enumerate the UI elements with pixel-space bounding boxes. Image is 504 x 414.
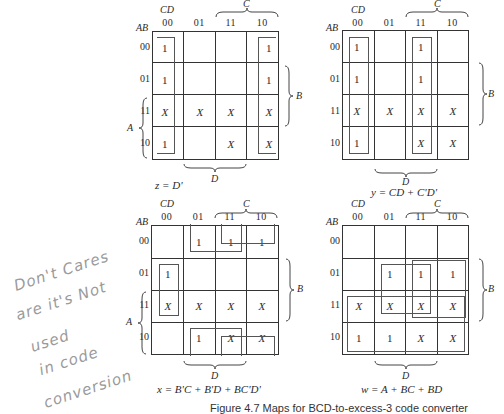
brace-b-icon xyxy=(478,62,488,126)
cell: X xyxy=(215,128,247,160)
equation-y: y = CD + C'D' xyxy=(371,186,437,198)
cell: X xyxy=(374,95,406,127)
row-code: 01 xyxy=(324,267,340,278)
col-vars-label: CD xyxy=(351,198,365,209)
brace-b-label: B xyxy=(296,90,302,101)
cell: X xyxy=(437,127,469,159)
brace-b-icon xyxy=(478,258,488,322)
brace-d-icon xyxy=(183,360,247,370)
note-line: used xyxy=(28,326,72,356)
col-vars-label: CD xyxy=(160,198,174,209)
col-code: 01 xyxy=(183,211,215,222)
kmap-grid: 1 1 1 1 X X X X 1 X X xyxy=(342,30,469,160)
row-code: 00 xyxy=(324,41,340,52)
row-code: 01 xyxy=(324,73,340,84)
brace-d-icon xyxy=(183,163,247,173)
row-code: 10 xyxy=(324,137,340,148)
cell: X xyxy=(437,95,469,127)
group-outline xyxy=(157,37,175,154)
brace-a-label: A xyxy=(127,122,133,133)
col-code: 11 xyxy=(405,17,437,28)
brace-b-label: B xyxy=(488,88,494,99)
group-outline xyxy=(349,37,369,154)
brace-a-label: A xyxy=(126,316,132,327)
row-vars-label: AB xyxy=(136,216,148,227)
group-outline xyxy=(221,224,275,244)
group-outline xyxy=(412,260,466,318)
brace-c-label: C xyxy=(434,0,441,9)
kmap-grid: 1 1 1 X X X X 1 1 X X xyxy=(342,225,469,355)
row-code: 10 xyxy=(324,331,340,342)
row-code: 00 xyxy=(324,235,340,246)
col-vars-label: CD xyxy=(160,4,174,15)
figure-caption: Figure 4.7 Maps for BCD-to-excess-3 code… xyxy=(210,402,468,414)
brace-b-label: B xyxy=(297,283,303,294)
col-code: 10 xyxy=(437,17,469,28)
brace-d-label: D xyxy=(211,173,218,184)
col-code: 00 xyxy=(342,211,374,222)
row-code: 00 xyxy=(133,235,149,246)
equation-z: z = D' xyxy=(155,179,183,191)
cell: X xyxy=(184,96,216,128)
row-code: 11 xyxy=(324,105,340,116)
brace-c-icon xyxy=(214,209,278,219)
cell: X xyxy=(215,290,247,322)
col-code: 11 xyxy=(215,17,247,28)
brace-c-label: C xyxy=(243,198,250,209)
brace-a-icon xyxy=(137,291,147,355)
brace-d-icon xyxy=(374,360,438,370)
group-outline xyxy=(258,37,276,154)
brace-a-icon xyxy=(138,97,148,159)
brace-d-label: D xyxy=(211,370,218,381)
kmap-grid: 1 1 1 1 X X X X 1 X X xyxy=(151,225,279,355)
cell: X xyxy=(246,290,278,322)
row-code: 01 xyxy=(133,267,149,278)
col-code: 01 xyxy=(374,211,406,222)
brace-c-label: C xyxy=(434,198,441,209)
group-outline xyxy=(412,37,432,154)
col-code: 01 xyxy=(184,17,216,28)
cell: X xyxy=(215,96,247,128)
col-code: 01 xyxy=(374,17,406,28)
brace-c-label: C xyxy=(243,0,250,9)
row-code: 00 xyxy=(134,41,150,52)
brace-d-label: D xyxy=(402,370,409,381)
equation-x: x = B'C + B'D + BC'D' xyxy=(157,383,261,395)
equation-w: w = A + BC + BD xyxy=(361,383,442,395)
cell: X xyxy=(183,290,215,322)
brace-c-icon xyxy=(405,209,469,219)
group-outline xyxy=(221,336,275,356)
kmap-grid: 1 1 1 1 X X X X 1 X X xyxy=(152,31,279,160)
col-code: 00 xyxy=(342,17,374,28)
col-code: 00 xyxy=(152,17,184,28)
col-code: 00 xyxy=(151,211,183,222)
brace-c-icon xyxy=(215,8,279,18)
col-vars-label: CD xyxy=(351,4,365,15)
group-outline xyxy=(159,264,179,316)
row-vars-label: AB xyxy=(136,22,148,33)
brace-b-icon xyxy=(285,258,295,322)
row-vars-label: AB xyxy=(326,216,338,227)
brace-c-icon xyxy=(405,8,469,18)
row-code: 11 xyxy=(324,299,340,310)
brace-b-label: B xyxy=(488,283,494,294)
brace-b-icon xyxy=(284,65,294,127)
row-code: 01 xyxy=(134,73,150,84)
col-code: 10 xyxy=(247,17,279,28)
row-vars-label: AB xyxy=(326,22,338,33)
